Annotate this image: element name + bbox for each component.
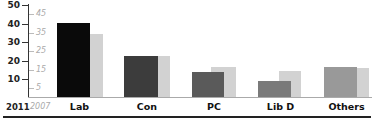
- y-tick-major: [22, 79, 29, 80]
- bottom-rule: [3, 116, 371, 118]
- category-label: Lib D: [256, 101, 306, 112]
- category-label: Con: [122, 101, 172, 112]
- bar-2011-lib-d: [258, 81, 291, 97]
- legend-2007: 2007: [30, 102, 50, 111]
- y-tick-major: [22, 61, 29, 62]
- legend-2011: 2011: [6, 102, 30, 112]
- category-label: Others: [322, 101, 372, 112]
- x-axis-baseline: [28, 97, 372, 98]
- y-tick-label-2007: 35: [36, 28, 46, 38]
- y-tick-label-2007: 15: [36, 65, 46, 75]
- y-tick-minor: [29, 70, 34, 71]
- y-tick-label-2011: 20: [2, 56, 20, 66]
- y-tick-minor: [29, 33, 34, 34]
- y-tick-major: [22, 42, 29, 43]
- category-label: PC: [189, 101, 239, 112]
- bar-2011-others: [324, 67, 357, 97]
- bar-2007-lab: [90, 34, 103, 97]
- y-tick-minor: [29, 88, 34, 89]
- y-tick-label-2011: 40: [2, 19, 20, 29]
- y-tick-label-2007: 25: [36, 46, 46, 56]
- y-tick-label-2007: 45: [36, 9, 46, 19]
- y-tick-label-2011: 30: [2, 37, 20, 47]
- y-tick-minor: [29, 51, 34, 52]
- bar-2011-lab: [57, 23, 90, 97]
- bar-2011-con: [124, 56, 158, 97]
- bar-2011-pc: [192, 72, 224, 97]
- y-tick-label-2007: 5: [36, 83, 41, 93]
- election-bar-chart: 5040302010453525155 LabConPCLib DOthers …: [0, 0, 374, 121]
- y-tick-major: [22, 5, 29, 6]
- bar-2007-others: [357, 68, 369, 97]
- y-tick-major: [22, 24, 29, 25]
- y-tick-label-2011: 50: [2, 0, 20, 10]
- y-tick-label-2011: 10: [2, 74, 20, 84]
- y-tick-minor: [29, 14, 34, 15]
- category-label: Lab: [55, 101, 105, 112]
- bar-2007-con: [158, 56, 170, 97]
